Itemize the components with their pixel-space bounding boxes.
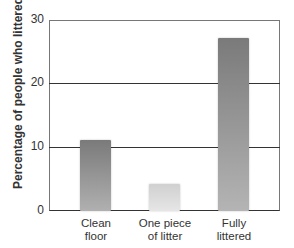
x-label-line: One piece	[130, 217, 200, 230]
y-tick-0: 0	[24, 203, 44, 217]
y-tick-10: 10	[24, 139, 44, 153]
bar-one-piece-of-litter	[149, 184, 180, 211]
x-label-line: of litter	[130, 230, 200, 243]
x-label-clean-floor: Clean floor	[61, 217, 131, 243]
x-label-line: littered	[199, 230, 269, 243]
y-axis-title: Percentage of people who littered	[11, 33, 25, 189]
x-label-line: Clean	[61, 217, 131, 230]
x-label-fully-littered: Fully littered	[199, 217, 269, 243]
bar-clean-floor	[80, 140, 111, 211]
y-tick-30: 30	[24, 12, 44, 26]
bar-fully-littered	[218, 38, 249, 211]
x-label-line: Fully	[199, 217, 269, 230]
x-label-one-piece: One piece of litter	[130, 217, 200, 243]
x-label-line: floor	[61, 230, 131, 243]
y-tick-20: 20	[24, 75, 44, 89]
